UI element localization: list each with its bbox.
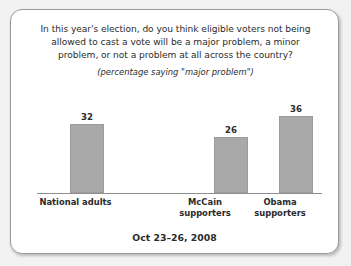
bar-national-adults: 32 — [70, 124, 104, 193]
category-label-obama-supporters-line-2: supporters — [244, 208, 316, 219]
category-label-obama-supporters: Obama supporters — [244, 197, 316, 218]
category-label-national-adults: National adults — [25, 197, 126, 208]
chart-card: In this year's election, do you think el… — [10, 9, 339, 254]
chart-title-line-2: allowed to cast a vote will be a major p… — [25, 36, 326, 49]
bar-value-mccain-supporters: 26 — [214, 125, 248, 135]
chart-title-line-1: In this year's election, do you think el… — [25, 23, 326, 36]
bar-value-obama-supporters: 36 — [279, 104, 313, 114]
bar-obama-supporters: 36 — [279, 116, 313, 193]
bar-rect-national-adults — [70, 124, 104, 193]
category-label-national-adults-line-1: National adults — [25, 197, 126, 208]
bar-mccain-supporters: 26 — [214, 137, 248, 193]
bar-value-national-adults: 32 — [70, 112, 104, 122]
bar-chart-plot: 32 26 36 — [37, 106, 322, 194]
chart-title-line-3: problem, or not a problem at all across … — [25, 49, 326, 62]
category-label-mccain-supporters-line-2: supporters — [169, 208, 241, 219]
chart-title-block: In this year's election, do you think el… — [25, 23, 326, 78]
x-axis-baseline — [37, 193, 322, 194]
chart-footer-date: Oct 23–26, 2008 — [11, 232, 338, 243]
category-label-mccain-supporters: McCain supporters — [169, 197, 241, 218]
bar-rect-mccain-supporters — [214, 137, 248, 193]
category-label-mccain-supporters-line-1: McCain — [169, 197, 241, 208]
chart-subtitle: (percentage saying "major problem") — [25, 67, 326, 78]
category-label-obama-supporters-line-1: Obama — [244, 197, 316, 208]
bar-rect-obama-supporters — [279, 116, 313, 193]
